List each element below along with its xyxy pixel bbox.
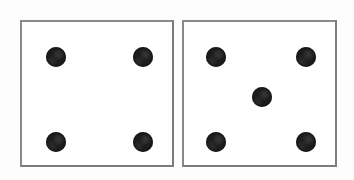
right-die-pip-top-left [206, 47, 226, 67]
left-die-pip-bottom-right [133, 132, 153, 152]
right-die-pip-bottom-right [296, 132, 316, 152]
left-die[interactable]: 4 [20, 20, 174, 167]
right-die-pip-bottom-left [206, 132, 226, 152]
left-die-pip-top-right [133, 47, 153, 67]
scene-title: Pair of dice [0, 0, 1, 1]
left-die-pip-bottom-left [46, 132, 66, 152]
right-die-pip-top-right [296, 47, 316, 67]
left-die-face [22, 22, 172, 165]
left-die-pip-top-left [46, 47, 66, 67]
right-die[interactable]: 5 [182, 20, 337, 167]
right-die-face [184, 22, 335, 165]
right-die-pip-center [252, 87, 272, 107]
dice-scene: Pair of dice 45 [0, 0, 354, 180]
